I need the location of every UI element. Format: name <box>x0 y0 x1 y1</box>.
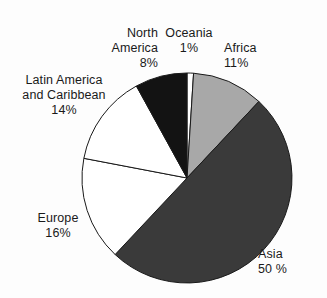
pie-label-europe-text: Europe <box>38 211 79 225</box>
pie-label-oceania: Oceania 1% <box>160 26 218 56</box>
pie-value-africa: 11% <box>224 56 286 71</box>
pie-label-africa-text: Africa <box>224 41 257 55</box>
pie-label-north-america-line1: North <box>127 26 158 40</box>
pie-value-oceania: 1% <box>160 41 218 56</box>
pie-value-asia: 50 % <box>258 262 318 277</box>
pie-label-north-america-line2: America <box>111 41 158 55</box>
pie-label-oceania-text: Oceania <box>165 26 212 40</box>
pie-chart-figure: North America 8% Oceania 1% Africa 11% L… <box>0 0 327 298</box>
pie-value-europe: 16% <box>22 226 94 241</box>
pie-label-asia: Asia 50 % <box>258 247 318 277</box>
pie-label-latin-america-line2: and Caribbean <box>22 88 105 102</box>
pie-label-europe: Europe 16% <box>22 211 94 241</box>
pie-label-north-america: North America 8% <box>96 26 158 71</box>
pie-value-north-america: 8% <box>96 56 158 71</box>
pie-label-latin-america-line1: Latin America <box>25 73 102 87</box>
pie-label-africa: Africa 11% <box>224 41 286 71</box>
pie-value-latin-america-and-caribbean: 14% <box>8 103 120 118</box>
pie-label-latin-america-and-caribbean: Latin America and Caribbean 14% <box>8 73 120 118</box>
pie-label-asia-text: Asia <box>258 247 283 261</box>
